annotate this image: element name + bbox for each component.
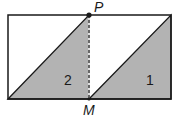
label-m: M (83, 102, 95, 118)
region-label-2: 2 (64, 72, 72, 88)
shaded-triangle-2 (8, 15, 89, 99)
point-p-dot (86, 12, 91, 17)
geometry-diagram: P M 2 1 (0, 0, 175, 121)
point-m-dot (87, 97, 90, 100)
region-label-1: 1 (146, 72, 154, 88)
label-p: P (94, 0, 104, 15)
shaded-triangle-1 (89, 15, 171, 99)
